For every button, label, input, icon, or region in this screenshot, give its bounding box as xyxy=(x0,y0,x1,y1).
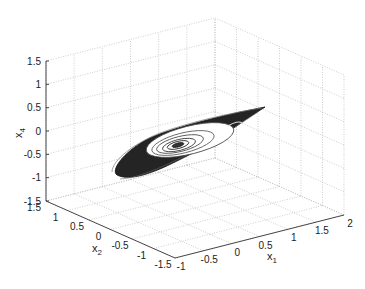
svg-text:1: 1 xyxy=(35,79,41,90)
svg-text:0.5: 0.5 xyxy=(259,240,273,251)
svg-text:1.5: 1.5 xyxy=(27,56,41,67)
3d-plot: -1.5-1-0.500.511.5 -1.5-1-0.500.511.5 -1… xyxy=(0,0,365,289)
x-axis-label: x1 xyxy=(267,250,278,265)
svg-text:-1.5: -1.5 xyxy=(154,259,172,270)
svg-text:-1: -1 xyxy=(177,261,186,272)
z-axis-ticks: -1.5-1-0.500.511.5 xyxy=(24,56,49,207)
svg-text:0: 0 xyxy=(235,247,241,258)
svg-text:-1: -1 xyxy=(32,172,41,183)
svg-text:0.5: 0.5 xyxy=(70,221,84,232)
svg-text:1: 1 xyxy=(53,212,59,223)
z-axis-label: x4 xyxy=(12,128,27,139)
y-axis-label: x2 xyxy=(92,242,103,257)
svg-text:0: 0 xyxy=(96,231,102,242)
svg-text:-1: -1 xyxy=(137,250,146,261)
attractor-trajectory xyxy=(112,107,265,179)
svg-text:0: 0 xyxy=(35,126,41,137)
svg-text:1.5: 1.5 xyxy=(315,225,329,236)
svg-text:-0.5: -0.5 xyxy=(111,240,129,251)
svg-text:2: 2 xyxy=(347,218,353,229)
svg-text:1: 1 xyxy=(291,232,297,243)
y-axis-ticks: -1.5-1-0.500.511.5 xyxy=(27,202,172,270)
svg-text:1.5: 1.5 xyxy=(27,202,41,213)
axes-lines xyxy=(46,61,344,258)
svg-text:-0.5: -0.5 xyxy=(24,149,42,160)
svg-text:0.5: 0.5 xyxy=(27,102,41,113)
svg-text:-0.5: -0.5 xyxy=(201,254,219,265)
x-axis-ticks: -1-0.500.511.52 xyxy=(177,218,354,272)
